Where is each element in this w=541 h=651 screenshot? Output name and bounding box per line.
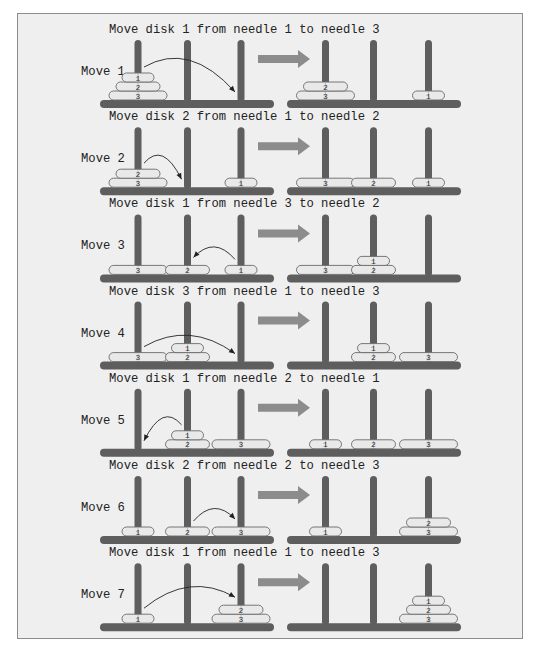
disk-number-label: 1	[136, 528, 141, 537]
disk-1: 1	[225, 265, 257, 275]
disk-number-label: 1	[323, 528, 328, 537]
move-row-5: Move disk 1 from needle 2 to needle 1Mov…	[81, 372, 461, 457]
disk-2: 2	[407, 518, 451, 528]
disk-3: 3	[109, 178, 167, 188]
disk-number-label: 2	[426, 519, 431, 528]
base-platform	[100, 274, 274, 282]
disk-1: 1	[413, 178, 445, 188]
disk-number-label: 2	[371, 353, 376, 362]
disk-1: 1	[172, 344, 204, 354]
base-platform	[287, 623, 461, 631]
disk-number-label: 1	[185, 344, 190, 353]
disk-2: 2	[166, 265, 210, 275]
move-title: Move disk 2 from needle 1 to needle 2	[109, 110, 380, 124]
base-platform	[100, 536, 274, 544]
disk-1: 1	[225, 178, 257, 188]
move-curve-arrow-icon	[194, 247, 236, 260]
needle-2	[184, 40, 191, 102]
disk-number-label: 1	[323, 440, 328, 449]
disk-3: 3	[400, 440, 458, 450]
disk-1: 1	[413, 596, 445, 606]
move-row-2: Move disk 2 from needle 1 to needle 2Mov…	[81, 110, 461, 195]
disk-number-label: 3	[136, 179, 141, 188]
disk-3: 3	[297, 265, 355, 275]
disk-1: 1	[172, 431, 204, 441]
disk-3: 3	[109, 91, 167, 101]
before-state: 321	[100, 40, 274, 108]
move-row-7: Move disk 1 from needle 1 to needle 3Mov…	[81, 546, 461, 631]
move-label: Move 2	[81, 152, 125, 166]
base-platform	[287, 449, 461, 457]
disk-3: 3	[109, 353, 167, 363]
disk-3: 3	[400, 353, 458, 363]
disk-3: 3	[400, 614, 458, 624]
after-state: 321	[287, 40, 461, 108]
disk-2: 2	[352, 265, 396, 275]
disk-number-label: 3	[426, 528, 431, 537]
needle-2	[370, 476, 377, 538]
disk-3: 3	[400, 527, 458, 537]
disk-2: 2	[304, 82, 348, 92]
disk-number-label: 1	[239, 266, 244, 275]
needle-1	[322, 302, 329, 364]
disk-number-label: 3	[136, 353, 141, 362]
disk-1: 1	[122, 614, 154, 624]
base-platform	[100, 449, 274, 457]
move-title: Move disk 1 from needle 2 to needle 1	[109, 372, 380, 386]
move-title: Move disk 1 from needle 1 to needle 3	[109, 23, 380, 37]
base-platform	[100, 100, 274, 108]
disk-2: 2	[407, 605, 451, 615]
move-row-4: Move disk 3 from needle 1 to needle 3Mov…	[81, 285, 461, 370]
move-row-3: Move disk 1 from needle 3 to needle 2Mov…	[81, 197, 461, 282]
needle-2	[370, 563, 377, 625]
needle-1	[135, 389, 142, 451]
transition-arrow-icon	[258, 137, 310, 155]
disk-number-label: 2	[185, 528, 190, 537]
move-label: Move 5	[81, 414, 125, 428]
disk-number-label: 1	[426, 179, 431, 188]
transition-arrow-icon	[258, 224, 310, 242]
disk-number-label: 2	[185, 266, 190, 275]
disk-number-label: 2	[185, 353, 190, 362]
before-state: 123	[100, 476, 274, 544]
base-platform	[287, 362, 461, 370]
disk-number-label: 1	[185, 431, 190, 440]
disk-3: 3	[212, 527, 270, 537]
needle-2	[184, 563, 191, 625]
base-platform	[287, 274, 461, 282]
before-state: 213	[100, 389, 274, 457]
after-state: 123	[287, 389, 461, 457]
disk-2: 2	[166, 353, 210, 363]
disk-number-label: 3	[239, 615, 244, 624]
disk-2: 2	[352, 440, 396, 450]
base-platform	[100, 623, 274, 631]
disk-1: 1	[358, 344, 390, 354]
before-state: 321	[100, 127, 274, 195]
needle-2	[370, 40, 377, 102]
disk-number-label: 3	[239, 440, 244, 449]
disk-2: 2	[116, 82, 160, 92]
disk-3: 3	[212, 440, 270, 450]
disk-number-label: 3	[323, 266, 328, 275]
disk-number-label: 3	[426, 615, 431, 624]
move-label: Move 6	[81, 501, 125, 515]
disk-3: 3	[297, 91, 355, 101]
disk-3: 3	[109, 265, 167, 275]
base-platform	[100, 187, 274, 195]
disk-number-label: 1	[371, 257, 376, 266]
after-state: 321	[287, 563, 461, 631]
before-state: 321	[100, 214, 274, 282]
disk-number-label: 1	[426, 597, 431, 606]
move-label: Move 1	[81, 65, 125, 79]
disk-number-label: 1	[426, 92, 431, 101]
disk-1: 1	[310, 440, 342, 450]
move-curve-arrow-icon	[194, 508, 236, 521]
disk-number-label: 3	[136, 92, 141, 101]
disk-number-label: 3	[323, 179, 328, 188]
disk-2: 2	[219, 605, 263, 615]
transition-arrow-icon	[258, 50, 310, 68]
disk-3: 3	[212, 614, 270, 624]
disk-number-label: 3	[426, 440, 431, 449]
needle-2	[184, 127, 191, 189]
disk-2: 2	[352, 353, 396, 363]
